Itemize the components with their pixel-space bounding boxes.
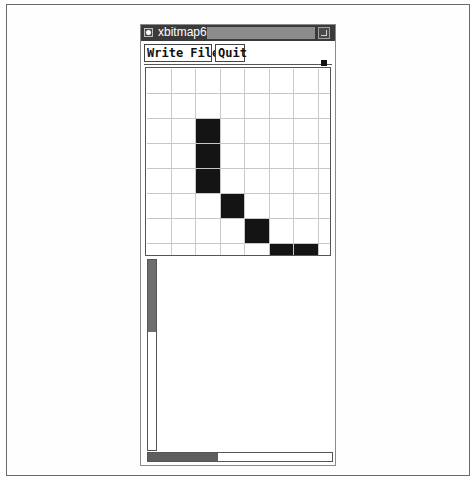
title-bar[interactable]: xbitmap6 xyxy=(141,25,335,41)
bitmap-cell[interactable] xyxy=(172,194,197,219)
bitmap-cell[interactable] xyxy=(147,194,172,219)
vertical-scrollbar-thumb[interactable] xyxy=(148,260,156,332)
maximize-icon[interactable] xyxy=(318,27,330,39)
bitmap-cell[interactable] xyxy=(221,144,246,169)
horizontal-scrollbar-thumb[interactable] xyxy=(148,453,218,461)
bitmap-cell[interactable] xyxy=(294,69,319,94)
bitmap-cell[interactable] xyxy=(147,244,172,256)
bitmap-cell[interactable] xyxy=(245,219,270,244)
bitmap-cell[interactable] xyxy=(196,69,221,94)
bitmap-cell[interactable] xyxy=(172,219,197,244)
write-file-button[interactable]: Write File xyxy=(144,44,212,62)
bitmap-cell[interactable] xyxy=(294,144,319,169)
bitmap-cell[interactable] xyxy=(221,69,246,94)
bitmap-cell[interactable] xyxy=(294,94,319,119)
bitmap-cell[interactable] xyxy=(319,194,332,219)
bitmap-cell[interactable] xyxy=(172,94,197,119)
bitmap-cell[interactable] xyxy=(172,119,197,144)
bitmap-cell[interactable] xyxy=(221,194,246,219)
bitmap-cell[interactable] xyxy=(147,69,172,94)
bitmap-cell[interactable] xyxy=(319,169,332,194)
bitmap-cell[interactable] xyxy=(294,219,319,244)
bitmap-cell[interactable] xyxy=(245,144,270,169)
bitmap-cell[interactable] xyxy=(221,94,246,119)
bitmap-cell[interactable] xyxy=(319,244,332,256)
bitmap-cell[interactable] xyxy=(172,69,197,94)
bitmap-cell[interactable] xyxy=(270,219,295,244)
bitmap-cell[interactable] xyxy=(196,194,221,219)
bitmap-cell[interactable] xyxy=(221,119,246,144)
bitmap-cell[interactable] xyxy=(221,244,246,256)
window-menu-icon[interactable] xyxy=(144,28,153,37)
bitmap-cell[interactable] xyxy=(270,194,295,219)
bitmap-cell[interactable] xyxy=(270,169,295,194)
bitmap-cell[interactable] xyxy=(196,244,221,256)
bitmap-cell[interactable] xyxy=(221,169,246,194)
title-bar-fill[interactable] xyxy=(207,27,315,39)
bitmap-cell[interactable] xyxy=(294,194,319,219)
bitmap-cell[interactable] xyxy=(270,244,295,256)
bitmap-cell[interactable] xyxy=(196,119,221,144)
bitmap-cell[interactable] xyxy=(319,219,332,244)
bitmap-cell[interactable] xyxy=(245,119,270,144)
bitmap-cell[interactable] xyxy=(319,119,332,144)
bitmap-cell[interactable] xyxy=(147,169,172,194)
bitmap-cell[interactable] xyxy=(270,69,295,94)
bitmap-cell[interactable] xyxy=(294,119,319,144)
horizontal-scrollbar[interactable] xyxy=(147,452,333,462)
bitmap-cell[interactable] xyxy=(147,94,172,119)
bitmap-cell[interactable] xyxy=(147,219,172,244)
pane-resize-handle[interactable] xyxy=(321,60,327,66)
bitmap-cell[interactable] xyxy=(294,244,319,256)
bitmap-cell[interactable] xyxy=(196,169,221,194)
bitmap-cell[interactable] xyxy=(294,169,319,194)
bitmap-cell[interactable] xyxy=(245,94,270,119)
bitmap-cell[interactable] xyxy=(172,144,197,169)
bitmap-cell[interactable] xyxy=(319,144,332,169)
bitmap-cell[interactable] xyxy=(196,219,221,244)
bitmap-cell[interactable] xyxy=(147,119,172,144)
bitmap-cell[interactable] xyxy=(270,144,295,169)
bitmap-cell[interactable] xyxy=(245,194,270,219)
bitmap-cell[interactable] xyxy=(172,244,197,256)
bitmap-cell[interactable] xyxy=(270,119,295,144)
vertical-scrollbar[interactable] xyxy=(147,259,157,451)
bitmap-editor[interactable] xyxy=(145,67,331,256)
quit-button[interactable]: Quit xyxy=(215,44,245,62)
bitmap-cell[interactable] xyxy=(245,69,270,94)
xbitmap-window: xbitmap6 Write File Quit xyxy=(140,24,336,466)
bitmap-cell[interactable] xyxy=(319,69,332,94)
bitmap-cell[interactable] xyxy=(196,94,221,119)
bitmap-cell[interactable] xyxy=(147,144,172,169)
bitmap-cell[interactable] xyxy=(245,169,270,194)
bitmap-cell[interactable] xyxy=(319,94,332,119)
bitmap-cell[interactable] xyxy=(270,94,295,119)
toolbar-divider xyxy=(144,64,332,65)
bitmap-cell[interactable] xyxy=(196,144,221,169)
bitmap-cell[interactable] xyxy=(172,169,197,194)
bitmap-cell[interactable] xyxy=(245,244,270,256)
bitmap-cell[interactable] xyxy=(221,219,246,244)
bitmap-grid[interactable] xyxy=(147,69,331,256)
window-title: xbitmap6 xyxy=(158,25,207,41)
